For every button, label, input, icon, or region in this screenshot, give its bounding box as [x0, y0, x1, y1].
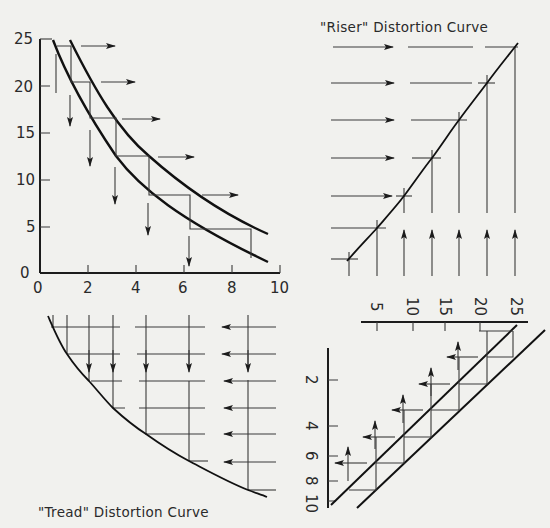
y-tick-label-0: 0: [20, 264, 30, 282]
riser-up-arrows: [404, 230, 515, 276]
transfer-y-tick-label-6: 6: [302, 451, 320, 461]
x-tick-label-2: 2: [83, 279, 93, 297]
x-tick-label-8: 8: [227, 279, 237, 297]
transfer-up-arrows: [348, 342, 458, 481]
transfer-y-ticks: [328, 380, 338, 501]
transfer-x-tick-label-10: 10: [403, 297, 421, 316]
transfer-y-tick-label-2: 2: [302, 375, 320, 385]
distortion-diagram: 0 5 10 15 20 25 0 2 4 6 8 10: [0, 0, 550, 528]
y-tick-label-20: 20: [14, 78, 33, 96]
x-tick-label-4: 4: [131, 279, 141, 297]
transfer-y-labels: 2 4 6 8 10: [302, 375, 320, 513]
main-right-arrows: [81, 46, 238, 195]
transfer-x-labels: 5 10 15 20 25: [367, 297, 525, 316]
transfer-x-tick-label-5: 5: [367, 302, 385, 312]
transfer-x-tick-label-20: 20: [471, 297, 489, 316]
y-tick-label-15: 15: [16, 124, 35, 142]
main-staircase: [56, 46, 251, 258]
transfer-x-ticks: [377, 322, 480, 331]
tread-curve: [48, 316, 267, 497]
tread-left-arrows: [222, 327, 276, 490]
transfer-chart: 5 10 15 20 25 2 4 6 8 10: [302, 297, 545, 513]
riser-chart: "Riser" Distortion Curve: [320, 19, 518, 276]
y-tick-label-25: 25: [14, 30, 33, 48]
tread-vertical-lines: [53, 315, 248, 490]
inner-diagonal: [331, 325, 517, 505]
tread-down-arrows: [89, 350, 248, 372]
x-tick-label-10: 10: [270, 279, 289, 297]
transfer-x-tick-label-25: 25: [507, 297, 525, 316]
main-chart-y-ticks: [40, 86, 50, 227]
tread-horizontal-lines: [51, 327, 208, 461]
y-tick-label-10: 10: [16, 171, 35, 189]
main-chart: 0 5 10 15 20 25 0 2 4 6 8 10: [14, 30, 289, 297]
x-tick-label-0: 0: [33, 279, 43, 297]
transfer-staircase: [349, 331, 513, 490]
transfer-x-tick-label-15: 15: [436, 297, 454, 316]
y-tick-label-5: 5: [26, 218, 36, 236]
transfer-y-tick-label-10: 10: [302, 494, 320, 513]
riser-chart-title: "Riser" Distortion Curve: [320, 19, 488, 35]
x-tick-label-6: 6: [178, 279, 188, 297]
main-chart-x-ticks: [88, 265, 280, 273]
transfer-y-tick-label-8: 8: [302, 476, 320, 486]
tread-chart-title: "Tread" Distortion Curve: [38, 504, 209, 520]
tread-chart: "Tread" Distortion Curve: [38, 315, 276, 520]
main-down-arrows: [70, 95, 189, 266]
transfer-y-tick-label-4: 4: [302, 421, 320, 431]
